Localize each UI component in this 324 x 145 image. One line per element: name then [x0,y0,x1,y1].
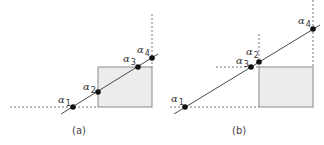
clip-rectangle-b [259,67,313,107]
label-alpha2-a: α2 [83,81,96,95]
point-alpha1-a [70,104,76,110]
label-alpha3-a: α3 [123,53,136,67]
point-alpha4-a [149,55,155,61]
caption-b: (b) [232,125,246,136]
label-alpha2-b: α2 [246,46,259,60]
point-alpha4-b [310,26,316,32]
point-alpha2-b [256,59,262,65]
label-alpha1-b: α1 [171,93,184,107]
caption-a: (a) [72,125,86,136]
point-alpha2-a [95,89,101,95]
panel-b: α1 α2 α3 α4 (b) [170,0,320,136]
label-alpha4-a: α4 [137,44,150,58]
panel-a: α1 α2 α3 α4 (a) [10,14,158,136]
label-alpha4-b: α4 [298,15,311,29]
diagram-canvas: α1 α2 α3 α4 (a) α1 α2 α3 α4 (b) [0,0,324,145]
label-alpha1-a: α1 [58,94,71,108]
point-alpha3-b [248,64,254,70]
clip-rectangle-a [98,67,152,107]
point-alpha3-a [135,64,141,70]
